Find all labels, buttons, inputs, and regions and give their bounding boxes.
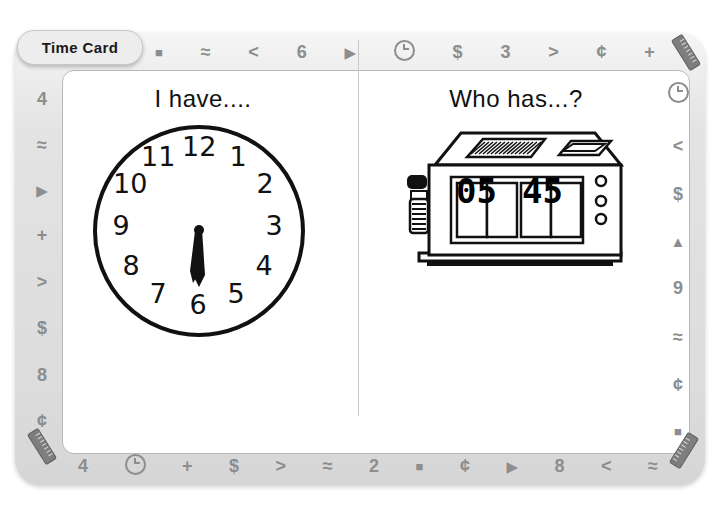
card-left-half: I have.... 12 1 2 3 4 5 6 7 8 9 10 11 xyxy=(47,37,359,419)
plus-icon: + xyxy=(182,457,193,475)
digital-flip-clock: 05 45 xyxy=(399,119,649,279)
square-icon: ■ xyxy=(674,425,682,438)
approx-icon: ≈ xyxy=(673,328,683,346)
border-rail-bottom: 4 + $ > ≈ 2 ■ ¢ ▶ 8 < ≈ xyxy=(78,452,658,480)
digit-8: 8 xyxy=(555,457,565,475)
less-than-icon: < xyxy=(601,457,612,475)
time-card-worksheet: ■ ≈ < 6 ▶ $ 3 > ¢ + 4 ≈ ▶ + > $ 8 ¢ < $ … xyxy=(0,0,720,508)
clock-icon xyxy=(125,454,146,478)
cent-icon: ¢ xyxy=(673,376,683,394)
approx-icon: ≈ xyxy=(648,457,658,475)
clock-hands xyxy=(93,125,305,337)
clock-center-pin xyxy=(194,225,204,235)
greater-than-icon: > xyxy=(276,457,287,475)
digit-4: 4 xyxy=(37,90,47,108)
approx-icon: ≈ xyxy=(323,457,333,475)
dollar-icon: $ xyxy=(37,319,47,337)
digital-minutes: 45 xyxy=(522,171,563,211)
triangle-right-icon: ▶ xyxy=(506,459,518,474)
plus-icon: + xyxy=(37,226,48,244)
analog-clock: 12 1 2 3 4 5 6 7 8 9 10 11 xyxy=(93,125,305,337)
left-prompt: I have.... xyxy=(47,85,359,113)
approx-icon: ≈ xyxy=(37,136,47,154)
digital-hours: 05 xyxy=(456,171,497,211)
cent-icon: ¢ xyxy=(37,412,47,430)
greater-than-icon: > xyxy=(37,273,48,291)
less-than-icon: < xyxy=(673,137,684,155)
card-right-half: Who has...? xyxy=(359,37,673,419)
square-icon: ■ xyxy=(416,460,424,473)
digit-8: 8 xyxy=(37,366,47,384)
right-prompt: Who has...? xyxy=(359,85,673,113)
dollar-icon: $ xyxy=(673,185,683,203)
digit-2: 2 xyxy=(369,457,379,475)
dollar-icon: $ xyxy=(229,457,239,475)
digit-4: 4 xyxy=(78,457,88,475)
digit-9: 9 xyxy=(673,279,683,297)
cent-icon: ¢ xyxy=(460,457,470,475)
